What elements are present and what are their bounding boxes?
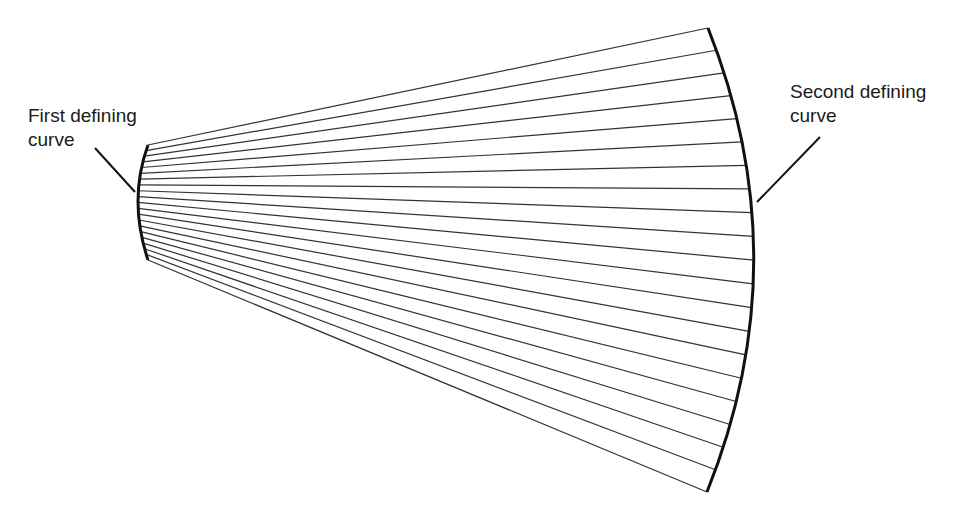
ruling-line	[146, 254, 715, 469]
ruling-line	[142, 119, 737, 168]
ruling-line	[148, 260, 707, 492]
ruling-line	[138, 208, 753, 284]
ruling-line	[146, 50, 716, 150]
ruling-line	[138, 197, 753, 237]
ruling-line	[139, 220, 749, 331]
ruling-line	[143, 96, 731, 162]
second-curve-label-line-2: curve	[790, 104, 926, 128]
first-curve-label-line-1: First defining	[28, 104, 137, 128]
ruling-line	[140, 165, 747, 179]
first-defining-curve-label: First defining curve	[28, 104, 137, 152]
second-curve-leader-line	[757, 137, 820, 202]
ruled-surface-diagram	[0, 0, 976, 523]
ruling-line	[140, 142, 742, 173]
second-defining-curve-label: Second defining curve	[790, 80, 926, 128]
ruling-lines	[138, 28, 754, 492]
second-curve-label-line-1: Second defining	[790, 80, 926, 104]
first-curve-label-line-2: curve	[28, 128, 137, 152]
ruling-line	[145, 249, 724, 447]
ruling-line	[141, 232, 742, 379]
first-curve-leader-line	[95, 148, 135, 192]
ruling-line	[138, 191, 752, 213]
ruling-line	[138, 202, 754, 260]
ruling-line	[139, 185, 750, 189]
ruling-line	[142, 237, 736, 401]
